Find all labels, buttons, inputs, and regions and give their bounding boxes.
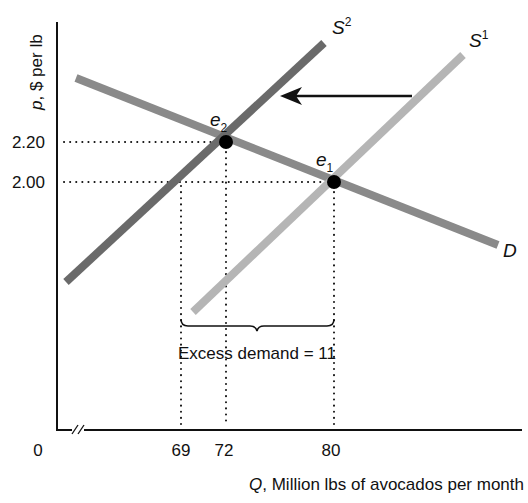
excess-demand-brace bbox=[181, 319, 334, 331]
x-tick-69: 69 bbox=[172, 441, 191, 460]
excess-demand-label: Excess demand = 11 bbox=[178, 344, 336, 363]
equilibrium-point-e1 bbox=[327, 175, 341, 189]
shift-arrow-icon bbox=[280, 87, 412, 105]
x-tick-80: 80 bbox=[322, 441, 341, 460]
origin-label: 0 bbox=[33, 441, 42, 460]
axis-break-icon bbox=[72, 424, 84, 436]
equilibrium-point-e2 bbox=[219, 135, 233, 149]
curve-label-d: D bbox=[503, 240, 517, 261]
curve-label-s2: S2 bbox=[332, 15, 352, 38]
x-tick-72: 72 bbox=[215, 441, 234, 460]
y-axis-title: p, $ per lb bbox=[27, 34, 46, 111]
curve-label-s1: S1 bbox=[469, 28, 489, 51]
y-tick-200: 2.00 bbox=[12, 173, 45, 192]
guide-lines bbox=[64, 142, 334, 424]
supply-demand-chart: Excess demand = 11 S2 S1 D e2 e1 2.20 2.… bbox=[0, 0, 528, 503]
y-tick-220: 2.20 bbox=[12, 133, 45, 152]
x-axis-title: Q, Million lbs of avocados per month bbox=[249, 475, 524, 494]
